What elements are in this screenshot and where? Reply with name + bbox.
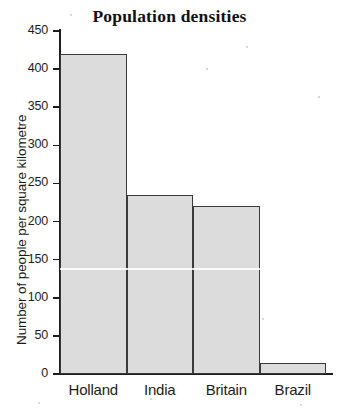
x-axis-label-india: India	[127, 381, 194, 398]
y-axis-tick-label: 350	[28, 99, 48, 113]
y-axis-tick-label: 300	[28, 137, 48, 151]
y-axis-tick	[53, 221, 60, 223]
y-axis-tick-label: 0	[41, 366, 48, 380]
y-axis-tick-label: 200	[28, 214, 48, 228]
y-axis-tick	[53, 106, 60, 108]
bar-holland	[60, 54, 127, 374]
y-axis-tick-label: 400	[28, 61, 48, 75]
bar-india	[127, 195, 194, 374]
y-axis-tick-label: 50	[34, 328, 48, 342]
y-axis-tick	[53, 373, 60, 375]
y-axis-tick	[53, 335, 60, 337]
y-axis-tick	[53, 297, 60, 299]
bar-britain	[193, 206, 260, 374]
scan-speck	[38, 402, 40, 404]
y-axis-tick	[53, 68, 60, 70]
y-axis-tick	[53, 259, 60, 261]
y-axis-tick	[53, 183, 60, 185]
y-axis-tick	[53, 145, 60, 147]
x-axis-label-britain: Britain	[193, 381, 260, 398]
x-axis-label-brazil: Brazil	[260, 381, 327, 398]
y-axis-tick	[53, 30, 60, 32]
scan-speck	[300, 404, 302, 406]
bar-brazil	[260, 363, 327, 374]
chart-title: Population densities	[0, 6, 339, 27]
scan-speck	[150, 398, 152, 400]
x-axis-label-holland: Holland	[60, 381, 127, 398]
y-axis-tick-label: 100	[28, 290, 48, 304]
y-axis-tick-label: 450	[28, 23, 48, 37]
y-axis-tick-label: 150	[28, 252, 48, 266]
y-axis-tick-label: 250	[28, 175, 48, 189]
plot-area	[60, 31, 326, 374]
